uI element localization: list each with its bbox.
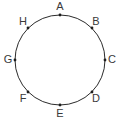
point-marker-f: [27, 91, 30, 94]
point-label-g: G: [4, 53, 13, 65]
circle-diagram-canvas: ABCDEFGH: [0, 0, 121, 127]
point-labels-layer: ABCDEFGH: [4, 0, 116, 119]
point-label-e: E: [56, 107, 63, 119]
point-label-f: F: [20, 92, 27, 104]
point-label-h: H: [19, 15, 27, 27]
point-marker-g: [14, 59, 17, 62]
point-marker-c: [104, 59, 107, 62]
point-marker-a: [59, 14, 62, 17]
point-label-b: B: [92, 15, 99, 27]
point-label-c: C: [108, 53, 116, 65]
point-label-a: A: [56, 0, 64, 12]
circle-diagram: ABCDEFGH: [0, 0, 121, 127]
point-marker-h: [27, 27, 30, 30]
point-label-d: D: [92, 92, 100, 104]
point-marker-b: [91, 27, 94, 30]
